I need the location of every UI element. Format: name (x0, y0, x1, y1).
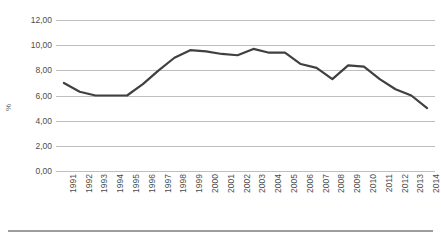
x-tick-label: 2005 (289, 174, 299, 218)
bottom-divider (8, 230, 433, 232)
x-tick-label: 1998 (178, 174, 188, 218)
x-tick-label: 1995 (131, 174, 141, 218)
x-tick-label: 2000 (210, 174, 220, 218)
x-tick-label: 2012 (400, 174, 410, 218)
x-tick-label: 2007 (321, 174, 331, 218)
y-tick-label: 6,00 (14, 91, 52, 101)
x-tick-label: 1993 (99, 174, 109, 218)
x-tick-label: 2004 (273, 174, 283, 218)
x-tick-label: 2011 (384, 174, 394, 218)
x-tick-label: 2009 (352, 174, 362, 218)
x-tick-label: 1999 (194, 174, 204, 218)
y-tick-label: 2,00 (14, 141, 52, 151)
x-tick-label: 1996 (147, 174, 157, 218)
x-tick-label: 1994 (115, 174, 125, 218)
y-axis-title-text: % (5, 103, 14, 110)
y-tick-label: 10,00 (14, 40, 52, 50)
x-tick-label: 2013 (415, 174, 425, 218)
series-line-svg (56, 20, 435, 171)
x-tick-label: 2001 (226, 174, 236, 218)
y-tick-label: 0,00 (14, 166, 52, 176)
x-tick-label: 2006 (305, 174, 315, 218)
x-tick-label: 2002 (242, 174, 252, 218)
y-tick-label: 12,00 (14, 15, 52, 25)
x-axis-tick-labels: 1991199219931994199519961997199819992000… (56, 174, 435, 222)
series-line (64, 49, 427, 108)
y-tick-label: 4,00 (14, 116, 52, 126)
y-tick-label: 8,00 (14, 65, 52, 75)
x-tick-label: 2014 (431, 174, 441, 218)
x-tick-label: 1992 (84, 174, 94, 218)
line-chart: % 12,0010,008,006,004,002,000,00 1991199… (0, 0, 441, 246)
x-tick-label: 2008 (336, 174, 346, 218)
x-tick-label: 1997 (163, 174, 173, 218)
x-tick-label: 1991 (68, 174, 78, 218)
x-tick-label: 2010 (368, 174, 378, 218)
plot-area (56, 20, 435, 171)
gridline (56, 171, 435, 172)
x-tick-label: 2003 (257, 174, 267, 218)
